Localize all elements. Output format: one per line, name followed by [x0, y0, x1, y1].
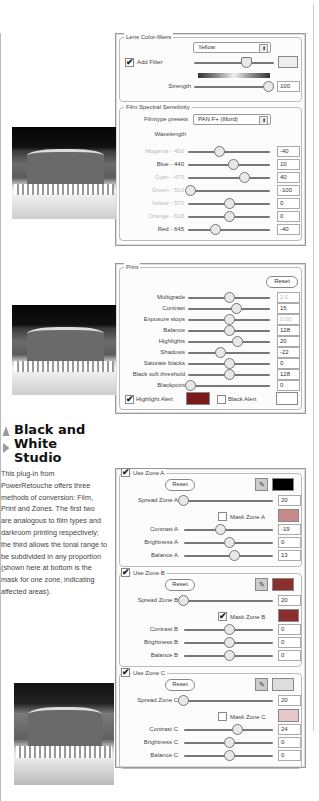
black-soft-threshold-value[interactable]: 128	[277, 369, 300, 380]
balance-b-slider[interactable]	[184, 655, 273, 657]
strength-slider[interactable]	[194, 86, 268, 88]
slider-thumb[interactable]	[263, 81, 274, 92]
slider-thumb[interactable]	[224, 314, 235, 325]
slider-thumb[interactable]	[231, 303, 242, 314]
multigrade-slider[interactable]	[188, 297, 270, 299]
filter-hue-slider[interactable]	[194, 62, 274, 64]
use-zone-b-checkbox[interactable]: ✔	[121, 568, 130, 577]
slider-thumb[interactable]	[224, 637, 235, 648]
contrast-b-slider[interactable]	[184, 629, 273, 631]
mask-zone-b-color-swatch[interactable]	[278, 609, 299, 622]
filmtype-select[interactable]: PAN F+ (Ilford) ⬍	[193, 114, 271, 125]
brightness-b-value[interactable]: 0	[278, 637, 301, 648]
spread-zone-a-value[interactable]: 20	[278, 495, 301, 506]
slider-thumb[interactable]	[241, 57, 252, 68]
mask-zone-a-checkbox[interactable]	[218, 512, 227, 521]
slider-thumb[interactable]	[224, 537, 235, 548]
balance-slider[interactable]	[188, 330, 270, 332]
exposure-stops-value[interactable]: 0.00	[277, 314, 300, 325]
blue-440-slider[interactable]	[188, 164, 270, 166]
balance-value[interactable]: 128	[277, 325, 300, 336]
highlights-slider[interactable]	[188, 341, 270, 343]
balance-c-slider[interactable]	[184, 755, 273, 757]
magenta-400-slider[interactable]	[188, 151, 270, 153]
exposure-stops-slider[interactable]	[188, 319, 270, 321]
green-510-value[interactable]: -100	[277, 185, 300, 196]
saturate-blacks-slider[interactable]	[188, 363, 270, 365]
slider-thumb[interactable]	[215, 524, 226, 535]
blue-440-value[interactable]: 10	[277, 159, 300, 170]
cyan-470-value[interactable]: 40	[277, 172, 300, 183]
brightness-b-slider[interactable]	[184, 642, 273, 644]
slider-thumb[interactable]	[224, 750, 235, 761]
mask-zone-b-checkbox[interactable]: ✔	[218, 612, 227, 621]
contrast-c-value[interactable]: 24	[278, 724, 301, 735]
slider-thumb[interactable]	[229, 550, 240, 561]
contrast-c-slider[interactable]	[184, 729, 273, 731]
spread-zone-c-slider[interactable]	[180, 700, 273, 702]
print-reset-button[interactable]: Reset	[266, 276, 298, 288]
black-alert-checkbox[interactable]	[217, 395, 226, 404]
contrast-a-slider[interactable]	[184, 529, 273, 531]
green-510-slider[interactable]	[188, 190, 270, 192]
use-zone-c-checkbox[interactable]: ✔	[121, 668, 130, 677]
use-zone-c-color-swatch[interactable]	[272, 678, 294, 691]
highlight-alert-checkbox[interactable]: ✔	[125, 395, 134, 404]
slider-thumb[interactable]	[210, 224, 221, 235]
yellow-570-slider[interactable]	[188, 203, 270, 205]
red-645-slider[interactable]	[188, 229, 270, 231]
blackpoint-value[interactable]: 0	[277, 380, 300, 391]
balance-a-slider[interactable]	[184, 555, 273, 557]
slider-thumb[interactable]	[224, 650, 235, 661]
slider-thumb[interactable]	[224, 369, 235, 380]
shadows-value[interactable]: -22	[277, 347, 300, 358]
blackpoint-slider[interactable]	[188, 385, 270, 387]
mask-zone-c-color-swatch[interactable]	[278, 709, 299, 722]
slider-thumb[interactable]	[178, 595, 189, 606]
red-645-value[interactable]: -40	[277, 224, 300, 235]
add-filter-checkbox[interactable]: ✔	[125, 58, 134, 67]
filter-select[interactable]: Yellow ⬍	[193, 42, 271, 53]
slider-thumb[interactable]	[239, 172, 250, 183]
contrast-a-value[interactable]: -19	[278, 524, 301, 535]
spread-zone-c-value[interactable]: 20	[278, 695, 301, 706]
highlight-alert-color-swatch[interactable]	[186, 392, 210, 405]
black-soft-threshold-slider[interactable]	[188, 374, 270, 376]
spread-zone-a-slider[interactable]	[180, 500, 273, 502]
use-zone-c-reset-button[interactable]: Reset	[165, 679, 195, 691]
brightness-a-slider[interactable]	[184, 542, 273, 544]
magenta-400-value[interactable]: -40	[277, 146, 300, 157]
saturate-blacks-value[interactable]: 0	[277, 358, 300, 369]
slider-thumb[interactable]	[224, 358, 235, 369]
highlights-value[interactable]: 20	[277, 336, 300, 347]
use-zone-b-reset-button[interactable]: Reset	[165, 579, 195, 591]
slider-thumb[interactable]	[178, 495, 189, 506]
slider-thumb[interactable]	[215, 347, 226, 358]
shadows-slider[interactable]	[188, 352, 270, 354]
multigrade-value[interactable]: 2.0	[277, 292, 300, 303]
slider-thumb[interactable]	[224, 198, 235, 209]
strength-value[interactable]: 100	[277, 81, 300, 92]
orange-618-slider[interactable]	[188, 216, 270, 218]
contrast-b-value[interactable]: 0	[278, 624, 301, 635]
cyan-470-slider[interactable]	[188, 177, 270, 179]
use-zone-b-color-swatch[interactable]	[272, 578, 294, 591]
spread-zone-b-value[interactable]: 20	[278, 595, 301, 606]
slider-thumb[interactable]	[178, 695, 189, 706]
yellow-570-value[interactable]: 0	[277, 198, 300, 209]
balance-b-value[interactable]: 0	[278, 650, 301, 661]
contrast-value[interactable]: 15	[277, 303, 300, 314]
slider-thumb[interactable]	[224, 292, 235, 303]
brightness-c-slider[interactable]	[184, 742, 273, 744]
use-zone-a-reset-button[interactable]: Reset	[165, 479, 195, 491]
slider-thumb[interactable]	[224, 211, 235, 222]
spread-zone-b-slider[interactable]	[180, 600, 273, 602]
eyedropper-icon[interactable]: ✎	[255, 678, 268, 691]
mask-zone-c-checkbox[interactable]	[218, 712, 227, 721]
slider-thumb[interactable]	[224, 325, 235, 336]
balance-c-value[interactable]: 0	[278, 750, 301, 761]
black-alert-color-swatch[interactable]	[276, 392, 298, 405]
eyedropper-icon[interactable]: ✎	[255, 478, 268, 491]
orange-618-value[interactable]: 0	[277, 211, 300, 222]
brightness-a-value[interactable]: 0	[278, 537, 301, 548]
